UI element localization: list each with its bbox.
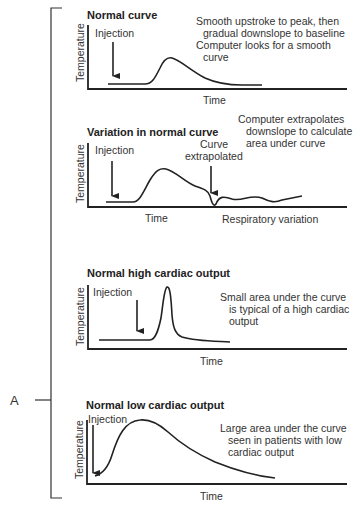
figure-label: A <box>10 393 19 408</box>
thermodilution-curve <box>106 169 302 205</box>
annotation-text: Small area under the curve is typical of… <box>220 291 352 327</box>
annotation-text: Smooth upstroke to peak, then gradual do… <box>196 15 348 63</box>
x-axis-label: Time <box>203 94 226 106</box>
injection-label: Injection <box>95 144 134 156</box>
panel-title: Normal curve <box>87 9 157 21</box>
x-axis-label: Time <box>145 212 168 224</box>
respiratory-variation-label: Respiratory variation <box>222 213 318 225</box>
panel-low-cardiac-output: Normal low cardiac output Temperature In… <box>73 399 350 502</box>
extrapolated-label: Curve extrapolated <box>185 138 243 162</box>
injection-label: Injection <box>95 27 134 39</box>
y-axis-label: Temperature <box>74 287 86 346</box>
x-axis-label: Time <box>200 490 223 502</box>
panel-high-cardiac-output: Normal high cardiac output Temperature I… <box>74 267 352 367</box>
panel-title: Normal high cardiac output <box>87 267 230 279</box>
thermodilution-curve <box>108 58 262 85</box>
annotation-text: Computer extrapolates downslope to calcu… <box>238 113 355 149</box>
panel-normal-curve: Normal curve Temperature Injection Time … <box>74 9 348 106</box>
injection-label: Injection <box>88 413 127 425</box>
annotation-text: Large area under the curve seen in patie… <box>220 422 350 458</box>
injection-label: Injection <box>93 286 132 298</box>
x-axis-label: Time <box>200 355 223 367</box>
panel-variation-normal-curve: Variation in normal curve Temperature In… <box>74 113 355 225</box>
thermodilution-curves-figure: A Normal curve Temperature Injection Tim… <box>0 0 360 507</box>
y-axis-label: Temperature <box>74 144 86 203</box>
figure-bracket: A <box>10 8 62 498</box>
y-axis-label: Temperature <box>73 420 85 479</box>
panel-title: Normal low cardiac output <box>86 399 224 411</box>
panel-title: Variation in normal curve <box>87 126 218 138</box>
y-axis-label: Temperature <box>74 23 86 82</box>
